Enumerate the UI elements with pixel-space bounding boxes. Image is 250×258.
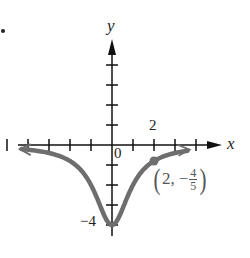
fraction-numerator: 4	[189, 167, 197, 180]
origin-label: 0	[114, 145, 122, 162]
point-label: ( 2, − 4 5 )	[152, 164, 208, 194]
fraction: 4 5	[189, 167, 197, 192]
open-paren: (	[154, 164, 161, 194]
axes	[7, 39, 222, 236]
fraction-denominator: 5	[190, 180, 196, 192]
y-tick-label-neg4: −4	[80, 213, 96, 230]
function-graph	[0, 0, 250, 258]
y-axis-label: y	[107, 16, 115, 36]
x-tick-label-2: 2	[149, 117, 157, 134]
point-x-value: 2,	[162, 169, 175, 189]
close-paren: )	[200, 164, 207, 194]
minus-sign: −	[179, 169, 189, 189]
x-axis-label: x	[227, 134, 235, 154]
